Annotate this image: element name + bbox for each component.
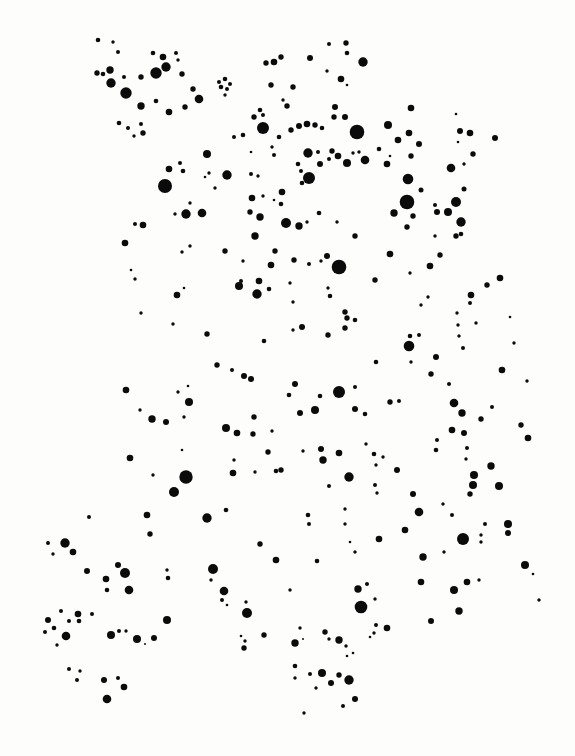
dot xyxy=(357,150,360,153)
dot xyxy=(241,259,244,262)
dot xyxy=(490,405,494,409)
dot xyxy=(364,442,367,445)
dot xyxy=(354,585,361,592)
dot xyxy=(419,303,422,306)
dot xyxy=(202,513,211,522)
dot xyxy=(327,157,331,161)
dot xyxy=(106,78,115,87)
dot xyxy=(154,99,159,104)
dot xyxy=(453,233,458,238)
dot xyxy=(179,71,184,76)
dot xyxy=(234,430,241,437)
dot xyxy=(442,550,445,553)
dot xyxy=(504,520,512,528)
dot xyxy=(416,141,422,147)
dot xyxy=(418,579,425,586)
dot xyxy=(67,619,71,623)
dot xyxy=(303,148,312,157)
dot xyxy=(299,169,303,173)
dot xyxy=(307,262,311,266)
dot xyxy=(449,427,456,434)
dot xyxy=(308,672,312,676)
dot xyxy=(144,643,146,645)
dot xyxy=(151,635,157,641)
dot xyxy=(408,153,413,158)
dot xyxy=(96,38,101,43)
dot xyxy=(268,82,273,87)
dot xyxy=(450,513,454,517)
dot xyxy=(318,394,323,399)
dot xyxy=(307,55,313,61)
dot xyxy=(242,608,252,618)
dot xyxy=(483,522,487,526)
dot xyxy=(133,635,141,643)
dot xyxy=(183,287,186,290)
dot xyxy=(188,244,191,247)
dot xyxy=(299,324,305,330)
dot xyxy=(165,568,168,571)
dot xyxy=(404,224,409,229)
dot xyxy=(258,108,263,113)
dot xyxy=(518,422,523,427)
dot xyxy=(345,51,350,56)
dot xyxy=(262,339,267,344)
dot xyxy=(302,638,304,640)
dot xyxy=(462,187,467,192)
dot xyxy=(43,630,47,634)
dot xyxy=(433,234,436,237)
dot xyxy=(336,450,343,457)
dot xyxy=(406,130,413,137)
dot xyxy=(343,507,346,510)
dot xyxy=(324,253,330,259)
dot xyxy=(344,644,347,647)
dot xyxy=(344,315,349,320)
dot xyxy=(434,448,439,453)
dot xyxy=(317,161,323,167)
dot xyxy=(464,579,471,586)
dot xyxy=(335,636,342,643)
dot xyxy=(279,202,284,207)
dot xyxy=(144,512,151,519)
dot xyxy=(404,341,415,352)
dot xyxy=(106,66,113,73)
dot xyxy=(296,162,301,167)
dot xyxy=(120,568,130,578)
dot xyxy=(447,164,456,173)
dot xyxy=(297,410,303,416)
dot xyxy=(464,457,467,460)
dot xyxy=(272,153,276,157)
dot xyxy=(250,431,255,436)
dot xyxy=(410,213,415,218)
dot xyxy=(101,677,107,683)
dot xyxy=(497,275,504,282)
dot xyxy=(174,292,181,299)
dot xyxy=(288,127,293,132)
dot xyxy=(138,74,143,79)
dot xyxy=(239,279,243,283)
dot xyxy=(223,93,226,96)
dot xyxy=(75,611,82,618)
dot xyxy=(249,195,256,202)
dot xyxy=(161,62,170,71)
dot xyxy=(219,85,224,90)
dot xyxy=(288,281,291,284)
dot xyxy=(349,541,352,544)
dot xyxy=(365,582,369,586)
dot xyxy=(94,70,99,75)
dot xyxy=(467,491,472,496)
dot xyxy=(343,40,348,45)
dot xyxy=(235,282,243,290)
dot xyxy=(428,371,433,376)
dot xyxy=(375,491,378,494)
dot xyxy=(117,629,121,633)
dot xyxy=(487,462,494,469)
dot xyxy=(470,151,475,156)
dot xyxy=(169,487,179,497)
dot xyxy=(291,328,294,331)
dot xyxy=(284,103,289,108)
dot xyxy=(244,600,247,603)
dot xyxy=(256,213,263,220)
dot xyxy=(369,636,372,639)
dot xyxy=(187,385,190,388)
dot xyxy=(499,367,506,374)
